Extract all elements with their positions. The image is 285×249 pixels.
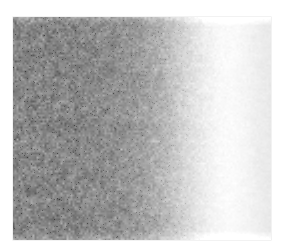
figure-root [0, 0, 285, 249]
micrograph-canvas [13, 17, 271, 240]
micrograph-image-plate [13, 17, 271, 240]
